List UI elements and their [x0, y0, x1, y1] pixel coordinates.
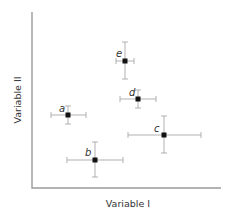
axes-lines [32, 12, 221, 188]
point-label-b: b [85, 147, 91, 158]
data-point-c: c [128, 116, 201, 153]
scatter-chart: e d a b [0, 0, 230, 216]
x-axis-title: Variable I [106, 198, 150, 209]
y-axis-title: Variable II [12, 76, 23, 123]
point-label-c: c [154, 123, 160, 134]
data-point-d: d [120, 87, 156, 108]
point-label-e: e [116, 48, 122, 59]
data-point-b: b [67, 142, 123, 177]
data-point-e: e [116, 42, 134, 79]
point-label-d: d [129, 87, 136, 98]
point-label-a: a [59, 103, 65, 114]
data-point-a: a [51, 103, 86, 124]
